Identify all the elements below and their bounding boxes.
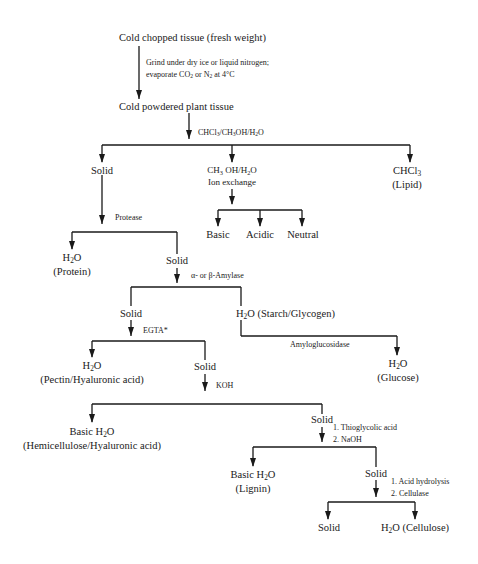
- pectin-label: (Pectin/Hyaluronic acid): [40, 375, 144, 386]
- methanol-phase-formula: CH3 OH/H2O: [207, 166, 257, 175]
- node-basic: Basic: [206, 230, 229, 241]
- reagent-egta: EGTA*: [143, 327, 168, 335]
- methanol-phase-ion-exchange: Ion exchange: [208, 178, 256, 187]
- node-solid-5: Solid: [311, 415, 333, 426]
- reagent-thioglycolic-1: 1. Thioglycolic acid: [333, 424, 397, 432]
- reagent-acid-hydrolysis-2: 2. Cellulase: [391, 490, 429, 498]
- reagent-amyloglucosidase: Amyloglucosidase: [290, 341, 350, 349]
- node-solid-4: Solid: [194, 362, 216, 373]
- hemicellulose-label: (Hemicellulose/Hyaluronic acid): [23, 441, 161, 452]
- protein-label: (Protein): [53, 267, 90, 278]
- reagent-protease: Protease: [115, 214, 142, 222]
- reagent-thioglycolic-2: 2. NaOH: [333, 436, 362, 444]
- node-pectin: H2O (Pectin/Hyaluronic acid): [40, 361, 144, 385]
- node-methanol-phase: CH3 OH/H2O Ion exchange: [207, 166, 257, 187]
- node-cold-powdered-tissue: Cold powdered plant tissue: [119, 102, 234, 113]
- glucose-formula: H2O: [389, 359, 408, 370]
- reagent-acid-hydrolysis-1: 1. Acid hydrolysis: [391, 478, 449, 486]
- node-cold-chopped-tissue: Cold chopped tissue (fresh weight): [119, 33, 266, 44]
- reagent-grind-line1: Grind under dry ice or liquid nitrogen;: [146, 59, 269, 67]
- node-acidic: Acidic: [246, 230, 274, 241]
- chcl3-formula: CHCl3: [393, 166, 421, 177]
- hemicellulose-formula: Basic H2O: [70, 427, 115, 438]
- node-cellulose: H2O (Cellulose): [381, 523, 449, 534]
- node-chcl3-lipid: CHCl3 (Lipid): [392, 166, 422, 190]
- node-solid-6: Solid: [365, 469, 387, 480]
- reagent-amylase: α- or β-Amylase: [191, 272, 244, 280]
- node-glucose: H2O (Glucose): [377, 359, 418, 383]
- node-hemicellulose: Basic H2O (Hemicellulose/Hyaluronic acid…: [23, 427, 161, 451]
- fractionation-flowchart: Cold chopped tissue (fresh weight) Grind…: [0, 0, 478, 564]
- node-solid-1: Solid: [91, 166, 113, 177]
- reagent-koh: KOH: [216, 382, 233, 390]
- node-solid-3: Solid: [120, 309, 142, 320]
- node-starch-glycogen: H2O (Starch/Glycogen): [236, 309, 335, 320]
- reagent-grind-line2: evaporate CO2 or N2 at 4°C: [146, 71, 235, 79]
- lipid-label: (Lipid): [392, 180, 422, 191]
- lignin-formula: Basic H2O: [231, 470, 276, 481]
- lignin-label: (Lignin): [236, 484, 271, 495]
- pectin-formula: H2O: [83, 361, 102, 372]
- node-neutral: Neutral: [287, 230, 319, 241]
- glucose-label: (Glucose): [377, 373, 418, 384]
- reagent-extraction: CHCl3/CH3OH/H2O: [198, 129, 264, 137]
- node-protein: H2O (Protein): [53, 253, 90, 277]
- node-solid-2: Solid: [166, 256, 188, 267]
- node-solid-final: Solid: [318, 523, 340, 534]
- protein-formula: H2O: [63, 253, 82, 264]
- node-lignin: Basic H2O (Lignin): [231, 470, 276, 494]
